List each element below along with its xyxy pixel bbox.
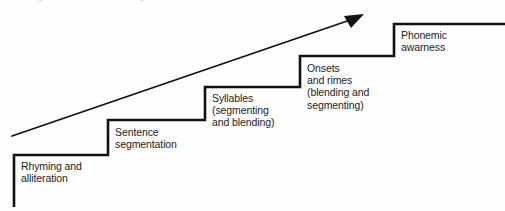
step-label-phonemic-awareness: Phonemic awarness [401,29,447,53]
step-label-syllables: Syllables (segmenting and blending) [212,92,274,129]
diagram-canvas: Phonological awareness development Rhymi… [0,0,505,211]
arrow-shaft [12,18,356,136]
step-label-sentence-segmentation: Sentence segmentation [115,126,177,150]
arrow-head-icon [344,14,364,28]
step-label-rhyming-and-alliteration: Rhyming and alliteration [21,160,82,184]
step-label-onsets-and-rimes: Onsets and rimes (blending and segmentin… [307,62,369,111]
